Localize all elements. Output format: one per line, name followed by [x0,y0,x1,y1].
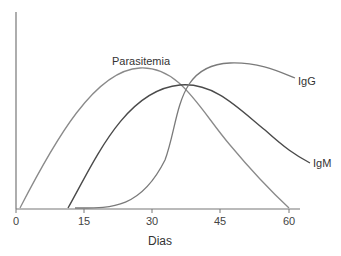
tick-label: 30 [146,215,158,227]
parasitemia-curve [20,68,289,208]
tick-label: 15 [78,215,90,227]
x-ticks [16,209,289,213]
tick-label: 60 [283,215,295,227]
parasitemia-label: Parasitemia [112,55,171,67]
igm-curve [68,85,310,208]
chart: 0 15 30 45 60 Dias Parasitemia IgG IgM [0,0,341,256]
x-axis-label: Dias [148,234,172,248]
igm-label: IgM [313,157,331,169]
igg-label: IgG [298,75,316,87]
tick-label: 45 [214,215,226,227]
tick-label: 0 [13,215,19,227]
